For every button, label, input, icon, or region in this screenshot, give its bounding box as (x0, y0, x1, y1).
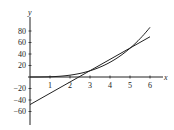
y-tick-label: 80 (18, 27, 26, 36)
x-tick-label: 6 (148, 81, 152, 90)
y-tick-label: −60 (13, 107, 26, 116)
x-tick-label: 4 (108, 81, 112, 90)
y-tick-label: −40 (13, 96, 26, 105)
y-tick-label: 40 (18, 50, 26, 59)
axes (28, 17, 163, 125)
chart: 12345680604020−20−40−60 x y (0, 0, 174, 130)
ticks: 12345680604020−20−40−60 (13, 27, 152, 117)
y-tick-label: 60 (18, 38, 26, 47)
y-tick-label: −20 (13, 84, 26, 93)
y-tick-label: 20 (18, 61, 26, 70)
x-axis-label: x (163, 73, 168, 82)
chart-svg: 12345680604020−20−40−60 x y (0, 0, 174, 130)
y-axis-label: y (27, 8, 32, 17)
x-tick-label: 1 (48, 81, 52, 90)
series (30, 27, 150, 104)
tangent-line-series (30, 37, 150, 105)
x-tick-label: 5 (128, 81, 132, 90)
curve-series (30, 27, 150, 77)
x-tick-label: 3 (88, 81, 92, 90)
